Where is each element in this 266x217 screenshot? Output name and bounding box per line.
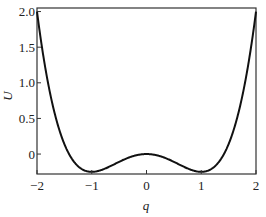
x-tick-label: 0 <box>143 178 150 193</box>
y-tick-label: 0.5 <box>19 111 35 126</box>
y-axis-ticks: 00.51.01.52.0 <box>19 4 41 161</box>
potential-curve <box>37 12 256 172</box>
y-axis-label: U <box>0 90 15 101</box>
potential-chart: −2−1012 00.51.01.52.0 q U <box>0 0 266 217</box>
y-tick-label: 1.0 <box>19 75 35 90</box>
x-tick-label: 2 <box>253 178 260 193</box>
x-tick-label: −2 <box>30 178 44 193</box>
x-axis-label: q <box>143 198 150 213</box>
y-tick-label: 0 <box>29 147 36 162</box>
x-tick-label: −1 <box>85 178 99 193</box>
plot-frame <box>37 8 256 174</box>
y-tick-label: 1.5 <box>19 40 35 55</box>
y-tick-label: 2.0 <box>19 4 35 19</box>
x-tick-label: 1 <box>198 178 205 193</box>
